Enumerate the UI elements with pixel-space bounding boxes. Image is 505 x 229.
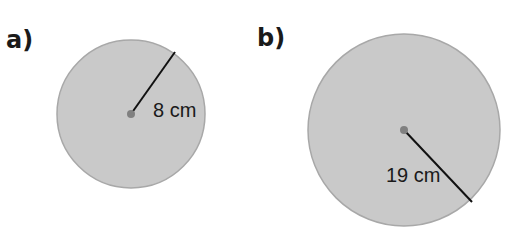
circle-b: 19 cm [308,34,500,226]
circle-a: 8 cm [57,40,205,188]
radius-label-b: 19 cm [386,164,440,186]
circles-diagram: 8 cm 19 cm [0,0,505,229]
radius-label-a: 8 cm [153,99,196,121]
